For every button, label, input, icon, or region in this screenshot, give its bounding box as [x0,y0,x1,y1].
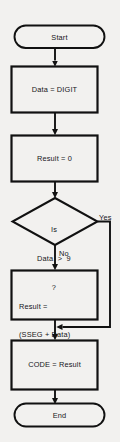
end-terminal-shape [15,404,105,427]
read-process-shape [12,67,98,113]
yes-merge-arrowhead [56,324,62,330]
decision-shape [13,198,98,245]
compute-process-shape [12,271,98,320]
init-process-shape [12,136,98,182]
flowchart-page: Start Data = DIGIT Result = 0 Is Data > … [0,0,120,442]
start-terminal-shape [15,26,105,49]
flowchart-canvas [0,0,120,442]
output-process-shape [12,341,98,390]
